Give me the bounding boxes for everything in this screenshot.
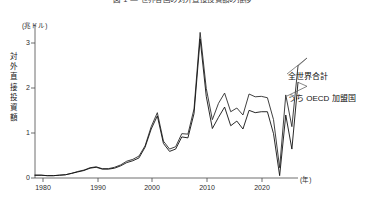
chart-plot-area bbox=[0, 0, 365, 208]
figure-container: 図 1 — 世界各国の対外直接投資額の推移 (兆ドル) 対外直接投資額 (年) … bbox=[0, 0, 365, 208]
axes-layer bbox=[31, 24, 298, 182]
data-line-oecd bbox=[35, 39, 298, 176]
data-line-world-total bbox=[35, 32, 298, 175]
series-layer bbox=[35, 32, 298, 175]
